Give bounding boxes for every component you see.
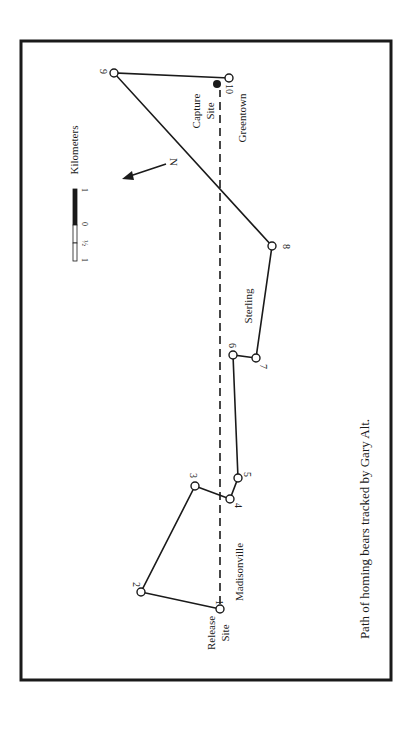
waypoint-7	[252, 354, 260, 362]
madisonville-label: Madisonville	[233, 543, 245, 601]
waypoint-label-7: 7	[258, 364, 269, 369]
homing-bears-map: 1 2 3 4 5 6 7 8 9 10 Release Site Madiso…	[0, 0, 412, 738]
capture-site-marker	[213, 80, 221, 88]
scale-bar: Kilometers 1 0 ½ 1	[68, 126, 89, 262]
waypoint-10	[225, 74, 233, 82]
waypoint-4	[226, 495, 234, 503]
waypoint-3	[191, 482, 199, 490]
bear-route	[114, 73, 272, 609]
waypoint-label-9: 9	[98, 69, 109, 74]
scale-bar-open-segment-1	[73, 225, 77, 243]
north-arrow: N	[122, 158, 180, 180]
sterling-label: Sterling	[242, 288, 254, 323]
waypoint-label-3: 3	[188, 473, 199, 478]
north-arrow-label: N	[168, 158, 180, 166]
figure-caption: Path of homing bears tracked by Gary Alt…	[357, 419, 372, 639]
north-arrow-icon	[122, 171, 134, 180]
scale-bar-filled-segment	[73, 189, 77, 225]
north-arrow-shaft	[130, 164, 166, 176]
scale-bar-title: Kilometers	[68, 126, 80, 175]
capture-site-label-line1: Capture	[190, 93, 202, 128]
waypoint-5	[234, 474, 242, 482]
waypoint-1	[216, 605, 224, 613]
waypoint-label-6: 6	[227, 343, 238, 348]
waypoint-8	[268, 242, 276, 250]
waypoint-label-10: 10	[224, 84, 235, 94]
waypoint-label-4: 4	[233, 503, 244, 508]
waypoint-6	[229, 351, 237, 359]
scale-tick-0: 0	[80, 222, 89, 226]
release-site-label-line1: Release	[205, 616, 217, 650]
waypoints	[110, 69, 276, 613]
waypoint-2	[137, 588, 145, 596]
scale-tick-1-right: 1	[80, 188, 89, 192]
waypoint-label-2: 2	[131, 582, 142, 587]
waypoint-9	[110, 69, 118, 77]
greentown-label: Greentown	[236, 93, 248, 142]
scale-tick-1-left: 1	[80, 258, 89, 262]
scale-tick-half: ½	[80, 240, 89, 246]
waypoint-label-1: 1	[214, 600, 225, 605]
release-site-label-line2: Site	[219, 624, 231, 641]
capture-site-label-line2: Site	[204, 102, 216, 119]
waypoint-label-8: 8	[281, 244, 292, 249]
waypoint-label-5: 5	[242, 472, 253, 477]
scale-bar-open-segment-2	[73, 243, 77, 261]
